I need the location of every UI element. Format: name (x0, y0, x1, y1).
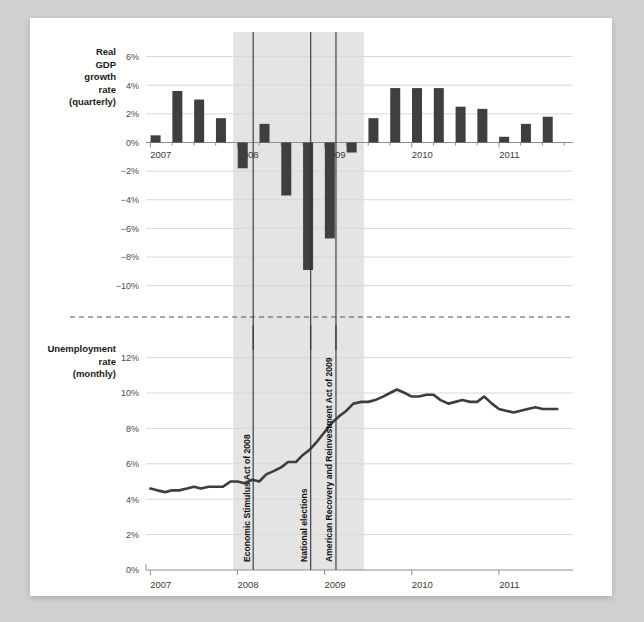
gdp-bar (325, 143, 335, 239)
unemployment-y-ticks: 12%10%8%6%4%2%0% (121, 353, 139, 575)
gdp-bar (347, 143, 357, 153)
gdp-bar (434, 88, 444, 142)
gdp-bar (281, 143, 291, 196)
event-label: American Recovery and Reinvestment Act o… (324, 357, 334, 562)
gdp-y-axis-title: RealGDPgrowthrate(quarterly) (69, 46, 117, 107)
event-label: Economic Stimulus Act of 2008 (242, 434, 252, 562)
y-tick-label: −2% (121, 166, 139, 176)
gdp-bar (543, 117, 553, 143)
unemployment-x-ticks: 20072008200920102011 (150, 570, 519, 590)
gdp-bar (499, 137, 509, 143)
y-axis-title-line: rate (99, 356, 116, 367)
y-axis-title-line: rate (99, 84, 116, 95)
gdp-bar (194, 100, 204, 143)
x-tick-label: 2007 (150, 579, 171, 590)
charts-container: 6%4%2%0%−2%−4%−6%−8%−10%RealGDPgrowthrat… (0, 0, 644, 622)
event-label: National elections (299, 488, 309, 562)
y-tick-label: 4% (126, 81, 139, 91)
y-tick-label: 12% (121, 353, 139, 363)
gdp-bar (412, 88, 422, 142)
gdp-bar (368, 118, 378, 142)
y-tick-label: −10% (116, 281, 139, 291)
y-tick-label: 0% (126, 565, 139, 575)
x-tick-label: 2011 (499, 579, 519, 590)
y-tick-label: −6% (121, 224, 139, 234)
y-tick-label: 2% (126, 109, 139, 119)
gdp-bar (238, 143, 248, 169)
y-tick-label: −4% (121, 195, 139, 205)
gdp-bar (456, 107, 466, 143)
gdp-y-ticks: 6%4%2%0%−2%−4%−6%−8%−10% (116, 52, 139, 291)
y-axis-title-line: (quarterly) (69, 96, 116, 107)
x-tick-label: 2009 (325, 579, 346, 590)
y-tick-label: 2% (126, 530, 139, 540)
y-tick-label: 0% (126, 138, 139, 148)
y-tick-label: 4% (126, 495, 139, 505)
figure-stage: 6%4%2%0%−2%−4%−6%−8%−10%RealGDPgrowthrat… (0, 0, 644, 622)
y-axis-title-line: Real (96, 46, 116, 57)
x-tick-label: 2011 (499, 149, 519, 160)
y-axis-title-line: GDP (95, 59, 116, 70)
economic-charts-svg: 6%4%2%0%−2%−4%−6%−8%−10%RealGDPgrowthrat… (0, 0, 644, 622)
y-tick-label: 8% (126, 424, 139, 434)
gdp-bar (477, 109, 487, 143)
y-axis-title-line: (monthly) (73, 368, 116, 379)
y-tick-label: 10% (121, 388, 139, 398)
gdp-bar (172, 91, 182, 143)
y-axis-title-line: Unemployment (47, 343, 116, 354)
gdp-bar (260, 124, 270, 143)
x-tick-label: 2007 (150, 149, 171, 160)
x-tick-label: 2010 (412, 579, 433, 590)
x-tick-label: 2010 (412, 149, 433, 160)
gdp-bar (151, 135, 161, 142)
y-tick-label: 6% (126, 52, 139, 62)
unemployment-y-axis-title: Unemploymentrate(monthly) (47, 343, 116, 379)
y-tick-label: −8% (121, 252, 139, 262)
x-tick-label: 2008 (237, 579, 258, 590)
y-axis-title-line: growth (84, 71, 116, 82)
gdp-bar (216, 118, 226, 142)
y-tick-label: 6% (126, 459, 139, 469)
gdp-bar (390, 88, 400, 142)
gdp-bar (303, 143, 313, 270)
gdp-bar (521, 124, 531, 143)
